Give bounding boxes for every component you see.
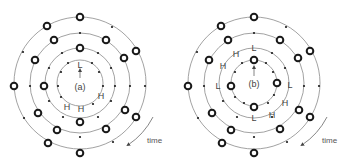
diagram-a: (a) L H H H time bbox=[11, 14, 163, 157]
time-label-b: time bbox=[322, 136, 338, 145]
letter-H: H bbox=[269, 110, 276, 120]
dual-spiral-diagram: (a) L H H H time bbox=[0, 0, 351, 165]
diagram-b: (b) L H H L L H H L time bbox=[185, 14, 338, 157]
letter-L: L bbox=[77, 60, 82, 70]
letter-L: L bbox=[215, 81, 220, 91]
letter-H: H bbox=[220, 61, 227, 71]
letter-H: H bbox=[78, 104, 85, 114]
panel-label-b: (b) bbox=[249, 79, 260, 89]
letter-H: H bbox=[64, 102, 71, 112]
time-label-a: time bbox=[147, 136, 163, 145]
letter-L: L bbox=[251, 113, 256, 123]
panel-label-a: (a) bbox=[75, 82, 86, 92]
letter-L: L bbox=[251, 43, 256, 53]
letter-L: L bbox=[287, 80, 292, 90]
letter-H: H bbox=[233, 49, 240, 59]
letter-H: H bbox=[98, 91, 105, 101]
letter-H: H bbox=[282, 98, 289, 108]
